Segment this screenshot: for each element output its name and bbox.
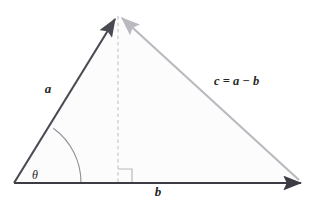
vector-b-label: b: [155, 184, 162, 199]
vector-c-equation-label: c = a − b: [214, 74, 259, 88]
vector-diagram-canvas: a b c = a − b θ: [0, 0, 313, 204]
theta-angle-label: θ: [32, 168, 38, 182]
vector-a-label: a: [45, 81, 52, 96]
triangle-interior-fill: [14, 14, 303, 183]
vector-diagram-figure: a b c = a − b θ: [0, 0, 313, 204]
